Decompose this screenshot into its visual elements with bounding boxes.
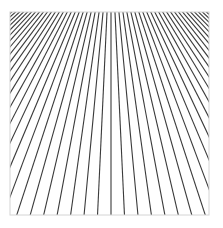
perspective-lines-figure	[0, 0, 223, 228]
line-pattern-svg	[0, 0, 223, 228]
